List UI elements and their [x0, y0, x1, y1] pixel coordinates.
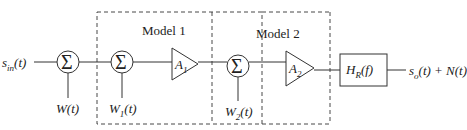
model-1-title: Model 1: [142, 24, 186, 37]
sigma-icon: Σ: [115, 52, 127, 72]
input-signal-label: sin(t): [2, 56, 26, 73]
model-2-title: Model 2: [256, 27, 300, 40]
sigma-icon: Σ: [61, 52, 73, 72]
amp-a2-label: A2: [289, 62, 301, 79]
sigma-icon: Σ: [231, 56, 243, 76]
noise-w-label: W(t): [56, 102, 79, 115]
noise-w2-label: W2(t): [225, 105, 253, 122]
noise-w1-label: W1(t): [109, 102, 137, 119]
amp-a1-label: A1: [175, 58, 187, 75]
filter-label: HR(f): [346, 63, 373, 80]
output-signal-label: so(t) + N(t): [409, 64, 467, 81]
